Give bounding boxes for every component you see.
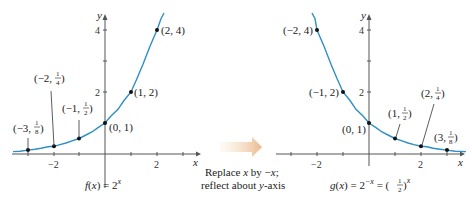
svg-text:g(x) = 2−x = (: g(x) = 2−x = ( [330,177,390,192]
svg-text:(2,: (2, [421,87,433,100]
left-x-tick-label: −2 [48,159,59,170]
leader-line [396,124,400,137]
svg-text:2: 2 [398,186,402,194]
point-label: (−1, 2) [309,86,339,99]
point-label: (−2, 4) [283,24,313,37]
svg-text:): ) [408,107,412,120]
right-graph: −2 2 x 4 2 y (−2, 4) (−1, 2) (0, 1) (1, … [276,9,466,194]
svg-text:1: 1 [398,177,402,185]
point-label-pos1: (1, 1 2 ) [388,105,412,122]
right-function-caption: g(x) = 2−x = ( 1 2 )x [330,176,411,194]
point-label-neg1: (−1, 1 2 ) [62,100,93,117]
svg-text:1: 1 [56,70,60,78]
left-graph: −2 2 x 4 2 y (−3, 1 8 [12,9,201,192]
svg-text:1: 1 [449,129,453,137]
right-y-axis-label: y [360,9,366,21]
svg-text:1: 1 [84,100,88,108]
left-x-axis-label: x [192,156,198,168]
left-y-tick-label: 2 [95,87,100,98]
svg-text:(−3,: (−3, [13,122,31,135]
transform-line-1: Replace x by −x; [205,166,279,178]
leader-line [51,91,54,146]
point-label-pos3: (3, 1 8 ) [434,129,458,146]
point-dot [129,90,133,94]
point-label-neg3: (−3, 1 8 ) [13,119,44,136]
transform-arrow [220,137,262,157]
svg-text:): ) [61,72,65,85]
point-dot [393,137,397,141]
right-y-tick-label: 4 [359,25,364,36]
svg-text:): ) [441,87,445,100]
point-dot [315,28,319,32]
right-arrow-icon [220,137,262,157]
svg-text:1: 1 [403,105,407,113]
left-y-arrow-icon [103,14,108,20]
point-label-pos2: (2, 1 4 ) [421,85,445,102]
point-dot [341,90,345,94]
leader-line [422,104,434,145]
svg-text:8: 8 [35,128,39,136]
svg-text:): ) [40,122,44,135]
svg-text:)x: )x [403,176,411,192]
svg-text:): ) [89,102,93,115]
point-label: (2, 4) [161,24,185,37]
svg-text:): ) [454,131,458,144]
svg-text:2: 2 [84,109,88,117]
svg-text:(−1,: (−1, [62,102,80,115]
point-label: (1, 2) [134,86,158,99]
svg-text:4: 4 [56,79,60,87]
point-label: (0, 1) [109,121,133,134]
right-x-axis-label: x [457,156,463,168]
svg-text:(3,: (3, [434,131,446,144]
left-function-caption: f(x) = 2x [85,177,122,192]
left-y-axis-label: y [96,9,102,21]
svg-text:1: 1 [35,119,39,127]
transform-line-2: reflect about y-axis [201,179,285,191]
right-y-tick-label: 2 [359,87,364,98]
right-x-tick-label: 2 [418,159,423,170]
svg-text:(−2,: (−2, [34,72,52,85]
point-dot [367,121,371,125]
svg-text:2: 2 [403,114,407,122]
point-dot [445,148,449,152]
svg-text:(1,: (1, [388,107,400,120]
left-y-tick-label: 4 [95,25,100,36]
diagram-canvas: −2 2 x 4 2 y (−3, 1 8 [0,0,472,206]
svg-text:8: 8 [449,138,453,146]
right-x-tick-label: −2 [311,159,322,170]
svg-text:1: 1 [436,85,440,93]
point-label-neg2: (−2, 1 4 ) [34,70,65,87]
point-label: (0, 1) [342,123,366,136]
svg-text:4: 4 [436,94,440,102]
point-dot [155,28,159,32]
point-dot [103,121,107,125]
left-x-tick-label: 2 [154,159,159,170]
right-y-arrow-icon [367,14,372,20]
